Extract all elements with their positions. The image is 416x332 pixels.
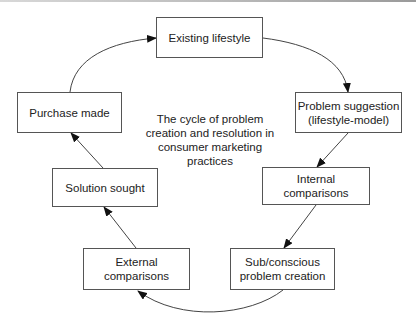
title-line-2: creation and resolution in — [140, 126, 280, 140]
title-line-3: consumer marketing — [140, 140, 280, 154]
node-internal-comparisons: Internal comparisons — [262, 167, 370, 205]
node-solution-sought: Solution sought — [52, 168, 158, 207]
node-label: Purchase made — [29, 106, 110, 120]
edge-existing-to-problem-suggestion — [263, 38, 348, 92]
node-label-line-1: Problem suggestion — [298, 99, 400, 113]
node-existing-lifestyle: Existing lifestyle — [156, 17, 263, 58]
node-problem-suggestion: Problem suggestion (lifestyle-model) — [295, 92, 402, 133]
node-label-line-2: comparisons — [104, 269, 169, 283]
node-label-line-1: External — [104, 255, 169, 269]
diagram-title: The cycle of problem creation and resolu… — [140, 112, 280, 168]
edge-problem-suggestion-to-internal — [317, 133, 348, 167]
edge-solution-to-purchase — [71, 133, 103, 168]
node-label-line-1: Sub/conscious — [240, 255, 326, 269]
edge-external-to-solution — [104, 207, 136, 248]
node-label: Existing lifestyle — [169, 31, 251, 45]
edge-internal-to-subconscious — [284, 205, 316, 248]
node-label-line-2: problem creation — [240, 269, 326, 283]
edge-purchase-to-existing — [70, 38, 156, 92]
title-line-4: practices — [140, 154, 280, 168]
edge-subconscious-to-external — [138, 290, 283, 312]
title-line-1: The cycle of problem — [140, 112, 280, 126]
node-purchase-made: Purchase made — [17, 92, 122, 133]
node-external-comparisons: External comparisons — [83, 248, 190, 290]
node-label: Internal comparisons — [263, 172, 369, 200]
node-label: Solution sought — [65, 181, 144, 195]
node-label-line-2: (lifestyle-model) — [298, 113, 400, 127]
node-subconscious-problem-creation: Sub/conscious problem creation — [230, 248, 335, 290]
